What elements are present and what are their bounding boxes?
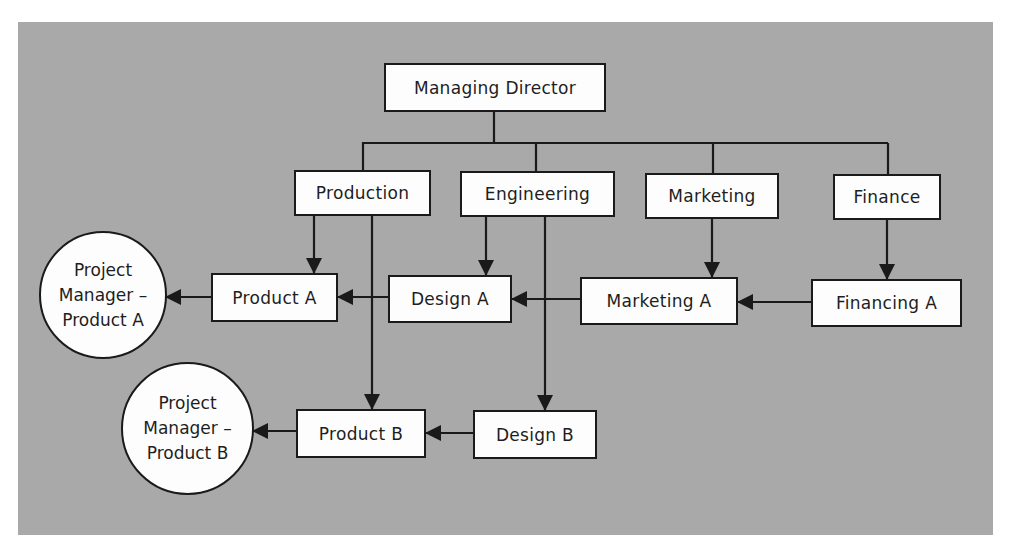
product-a-box[interactable]: Product A bbox=[211, 273, 338, 322]
engineering-box[interactable]: Engineering bbox=[460, 171, 615, 217]
pm-b-line-1: Project bbox=[158, 391, 216, 416]
project-manager-a-circle[interactable]: Project Manager – Product A bbox=[39, 231, 167, 359]
managing-director-box[interactable]: Managing Director bbox=[384, 63, 606, 112]
marketing-a-box[interactable]: Marketing A bbox=[580, 277, 738, 325]
production-label: Production bbox=[316, 183, 409, 203]
project-manager-b-circle[interactable]: Project Manager – Product B bbox=[121, 362, 254, 495]
financing-a-label: Financing A bbox=[836, 293, 937, 313]
financing-a-box[interactable]: Financing A bbox=[811, 279, 962, 327]
pm-a-line-2: Manager – bbox=[59, 283, 147, 308]
pm-a-line-1: Project bbox=[74, 258, 132, 283]
managing-director-label: Managing Director bbox=[414, 78, 576, 98]
pm-b-line-2: Manager – bbox=[143, 416, 231, 441]
design-a-box[interactable]: Design A bbox=[388, 275, 512, 323]
design-a-label: Design A bbox=[411, 289, 489, 309]
marketing-box[interactable]: Marketing bbox=[645, 173, 779, 219]
design-b-box[interactable]: Design B bbox=[473, 410, 597, 459]
marketing-label: Marketing bbox=[668, 186, 755, 206]
pm-a-line-3: Product A bbox=[62, 308, 144, 333]
pm-b-line-3: Product B bbox=[147, 441, 229, 466]
engineering-label: Engineering bbox=[485, 184, 590, 204]
product-b-box[interactable]: Product B bbox=[296, 409, 426, 458]
design-b-label: Design B bbox=[496, 425, 574, 445]
finance-box[interactable]: Finance bbox=[833, 174, 941, 220]
product-a-label: Product A bbox=[232, 288, 316, 308]
finance-label: Finance bbox=[853, 187, 920, 207]
production-box[interactable]: Production bbox=[294, 170, 431, 216]
marketing-a-label: Marketing A bbox=[606, 291, 711, 311]
product-b-label: Product B bbox=[319, 424, 403, 444]
